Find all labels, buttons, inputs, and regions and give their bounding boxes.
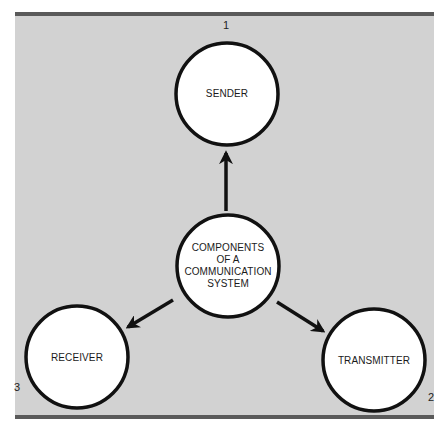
arrow-to-receiver (128, 300, 173, 327)
center-label-line-3: COMMUNICATION (178, 266, 278, 278)
center-label-line-4: SYSTEM (178, 278, 278, 290)
center-label-line-2: OF A (178, 254, 278, 266)
center-node-label: COMPONENTS OF A COMMUNICATION SYSTEM (178, 242, 278, 290)
receiver-label: RECEIVER (27, 352, 127, 364)
transmitter-number: 2 (428, 391, 434, 403)
sender-label: SENDER (177, 88, 277, 100)
sender-number: 1 (223, 19, 229, 31)
center-label-line-1: COMPONENTS (178, 242, 278, 254)
transmitter-label: TRANSMITTER (324, 355, 424, 367)
receiver-number: 3 (14, 381, 20, 393)
arrow-to-transmitter (277, 302, 323, 331)
